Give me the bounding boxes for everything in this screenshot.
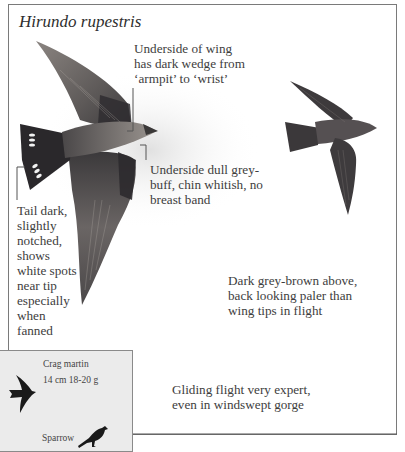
annotation-line: Underside of wing (134, 41, 245, 56)
crag-martin-silhouette-icon (8, 373, 38, 413)
annotation-tail: Tail dark, slightly notched, shows white… (17, 203, 77, 338)
crag-martin-upperside-illustration (285, 81, 377, 215)
annotation-line: buff, chin whitish, no (150, 177, 263, 192)
annotation-line: notched, (17, 233, 77, 248)
annotation-underwing: Underside of wing has dark wedge from ‘a… (134, 41, 245, 86)
annotation-line: Dark grey-brown above, (228, 273, 357, 288)
size-comparison-label: Sparrow (42, 432, 74, 444)
annotation-underside: Underside dull grey- buff, chin whitish,… (150, 162, 263, 207)
leader-tail (17, 167, 25, 200)
size-species-name: Crag martin (43, 358, 89, 370)
body-2 (315, 119, 377, 144)
tail-2 (285, 122, 320, 152)
lower-wing-2 (330, 138, 356, 215)
annotation-line: wing tips in flight (228, 303, 357, 318)
sparrow-silhouette-icon (77, 424, 109, 450)
annotation-line: breast band (150, 192, 263, 207)
annotation-line: shows (17, 248, 77, 263)
annotation-line: Tail dark, (17, 203, 77, 218)
annotation-line: ‘armpit’ to ‘wrist’ (134, 71, 245, 86)
size-measurements: 14 cm 18-20 g (43, 374, 98, 386)
size-comparison-box: Crag martin 14 cm 18-20 g Sparrow (0, 350, 133, 452)
annotation-line: when (17, 308, 77, 323)
annotation-upperparts: Dark grey-brown above, back looking pale… (228, 273, 357, 318)
annotation-line: near tip (17, 278, 77, 293)
annotation-line: white spots (17, 263, 77, 278)
annotation-line: even in windswept gorge (172, 397, 310, 412)
annotation-line: Underside dull grey- (150, 162, 263, 177)
annotation-line: especially (17, 293, 77, 308)
annotation-line: fanned (17, 323, 77, 338)
annotation-flight: Gliding flight very expert, even in wind… (172, 382, 310, 412)
annotation-line: Gliding flight very expert, (172, 382, 310, 397)
annotation-line: slightly (17, 218, 77, 233)
annotation-line: has dark wedge from (134, 56, 245, 71)
annotation-line: back looking paler than (228, 288, 357, 303)
